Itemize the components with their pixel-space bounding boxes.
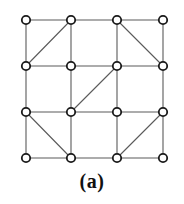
graph-node xyxy=(113,62,121,70)
graph-node xyxy=(22,16,30,24)
graph-edge-diagonal xyxy=(117,20,163,66)
graph-node xyxy=(67,154,75,162)
graph-node xyxy=(159,154,167,162)
graph-node xyxy=(113,154,121,162)
graph-node xyxy=(159,108,167,116)
graph-node xyxy=(67,62,75,70)
graph-node xyxy=(113,16,121,24)
figure-panel: (a) xyxy=(0,0,184,204)
graph-node xyxy=(22,154,30,162)
graph-edge-diagonal xyxy=(71,66,117,112)
graph-edge-diagonal xyxy=(117,112,163,158)
edge-layer xyxy=(26,20,163,158)
graph-node xyxy=(67,16,75,24)
graph-diagram xyxy=(0,0,184,172)
graph-node xyxy=(159,62,167,70)
graph-edge-diagonal xyxy=(26,112,71,158)
figure-caption: (a) xyxy=(0,168,184,194)
graph-node xyxy=(22,108,30,116)
graph-edge-diagonal xyxy=(26,20,71,66)
graph-node xyxy=(22,62,30,70)
graph-node xyxy=(159,16,167,24)
graph-node xyxy=(113,108,121,116)
graph-node xyxy=(67,108,75,116)
